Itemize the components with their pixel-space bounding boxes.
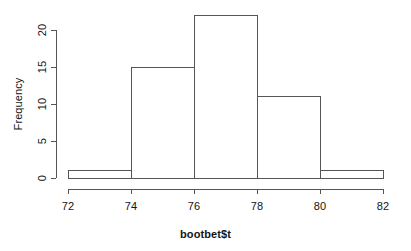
y-tick-label: 10 [36, 98, 48, 111]
histogram-bar [131, 67, 194, 178]
plot-canvas [0, 0, 411, 251]
x-tick-label: 80 [314, 200, 327, 212]
y-axis-line [51, 30, 56, 178]
x-tick-label: 78 [251, 200, 264, 212]
x-tick-label: 76 [188, 200, 201, 212]
x-axis-line [68, 189, 383, 194]
bars-group [68, 15, 383, 178]
histogram-plot: 727476788082 05101520 bootbet$t Frequenc… [0, 0, 411, 251]
histogram-bar [194, 15, 257, 178]
x-axis-title: bootbet$t [180, 228, 231, 240]
x-tick-label: 82 [377, 200, 390, 212]
y-tick-label: 15 [36, 61, 48, 74]
histogram-bar [68, 171, 131, 178]
histogram-bar [320, 171, 383, 178]
y-tick-label: 20 [36, 24, 48, 37]
y-tick-label: 0 [36, 175, 48, 181]
y-tick-label: 5 [36, 138, 48, 144]
histogram-bar [257, 97, 320, 178]
x-tick-label: 72 [62, 200, 75, 212]
y-axis-title: Frequency [12, 78, 24, 131]
x-tick-label: 74 [125, 200, 138, 212]
